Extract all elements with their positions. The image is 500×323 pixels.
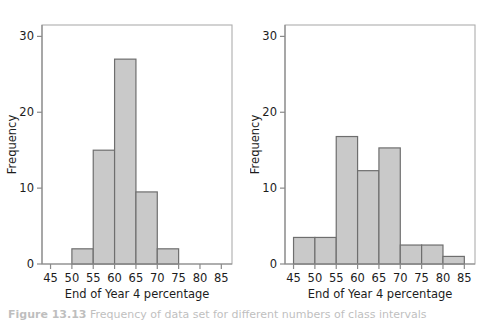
- y-axis-tick-label: 0: [270, 257, 277, 271]
- histogram-bar: [72, 249, 93, 264]
- x-axis-tick-label: 80: [193, 271, 208, 285]
- x-axis-tick-label: 75: [171, 271, 186, 285]
- x-axis-tick-label: 85: [214, 271, 229, 285]
- x-axis-tick-label: 70: [393, 271, 408, 285]
- y-axis-tick-label: 30: [262, 29, 277, 43]
- right-histogram-panel: 0102030455055606570758085End of Year 4 p…: [250, 0, 500, 310]
- y-axis-tick-label: 10: [19, 181, 34, 195]
- x-axis-tick-label: 55: [329, 271, 344, 285]
- y-axis-tick-label: 0: [27, 257, 34, 271]
- right-histogram-svg: 0102030455055606570758085End of Year 4 p…: [250, 0, 500, 310]
- figure-caption-strip: Figure 13.13 Frequency of data set for d…: [0, 310, 500, 323]
- y-axis-tick-label: 20: [19, 105, 34, 119]
- x-axis-title: End of Year 4 percentage: [308, 287, 453, 301]
- histogram-bar: [93, 150, 114, 264]
- figure-container: 0102030455055606570758085End of Year 4 p…: [0, 0, 500, 323]
- y-axis-tick-label: 30: [19, 29, 34, 43]
- x-axis-tick-label: 60: [350, 271, 365, 285]
- figure-caption-rest: Frequency of data set for different numb…: [87, 310, 427, 321]
- x-axis-tick-label: 80: [436, 271, 451, 285]
- figure-caption-label: Figure 13.13: [8, 310, 87, 321]
- histogram-bar: [336, 137, 357, 264]
- histogram-bar: [400, 245, 421, 264]
- x-axis-tick-label: 55: [86, 271, 101, 285]
- histogram-bar: [157, 249, 178, 264]
- x-axis-tick-label: 45: [286, 271, 301, 285]
- x-axis-tick-label: 45: [43, 271, 58, 285]
- histogram-bar: [115, 59, 136, 264]
- y-axis-title: Frequency: [250, 115, 262, 175]
- x-axis-tick-label: 65: [129, 271, 144, 285]
- histogram-bar: [422, 245, 443, 264]
- y-axis-title: Frequency: [5, 115, 19, 175]
- figure-caption: Figure 13.13 Frequency of data set for d…: [8, 310, 427, 321]
- histogram-bar: [379, 148, 400, 264]
- x-axis-tick-label: 75: [414, 271, 429, 285]
- histogram-bar: [315, 237, 336, 264]
- left-histogram-svg: 0102030455055606570758085End of Year 4 p…: [0, 0, 250, 310]
- x-axis-tick-label: 85: [457, 271, 472, 285]
- x-axis-tick-label: 65: [372, 271, 387, 285]
- histogram-bar: [443, 256, 464, 264]
- histogram-bar: [136, 192, 157, 264]
- left-histogram-panel: 0102030455055606570758085End of Year 4 p…: [0, 0, 250, 310]
- x-axis-tick-label: 50: [65, 271, 80, 285]
- y-axis-tick-label: 10: [262, 181, 277, 195]
- x-axis-tick-label: 50: [308, 271, 323, 285]
- histogram-bar: [358, 171, 379, 264]
- x-axis-tick-label: 70: [150, 271, 165, 285]
- x-axis-tick-label: 60: [107, 271, 122, 285]
- y-axis-tick-label: 20: [262, 105, 277, 119]
- x-axis-title: End of Year 4 percentage: [65, 287, 210, 301]
- histogram-bar: [294, 237, 315, 264]
